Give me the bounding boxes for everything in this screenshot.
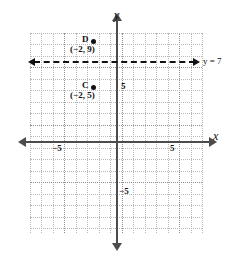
gridline-vertical (76, 33, 77, 233)
y-tick-label-5: 5 (121, 81, 126, 91)
data-point-d-name: D (82, 34, 89, 44)
gridline-vertical (41, 33, 42, 233)
dashed-line-arrow-right-icon (193, 58, 200, 66)
dashed-line-arrow-left-icon (28, 58, 35, 66)
x-axis-label: x (213, 129, 218, 144)
gridline-vertical-major (179, 33, 180, 233)
gridline-vertical-major (64, 33, 65, 233)
y-axis-arrow-down-icon (112, 243, 122, 251)
gridline-vertical (168, 33, 169, 233)
gridline-vertical (110, 33, 111, 233)
x-tick-label-5: 5 (170, 143, 175, 153)
line-equation-label: y = 7 (203, 56, 222, 66)
coordinate-plane-figure: y x −5 5 5 −5 y = 7 D (−2, 9) C (−2, 5) (0, 0, 238, 258)
gridline-vertical (191, 33, 192, 233)
y-tick-label-negative-5: −5 (119, 186, 129, 196)
data-point-d-coordinates: (−2, 9) (70, 44, 95, 54)
gridline-vertical (87, 33, 88, 233)
y-axis-label: y (114, 8, 119, 23)
data-point-c-coordinates: (−2, 5) (70, 90, 95, 100)
gridline-vertical-major (122, 33, 123, 233)
gridline-vertical (145, 33, 146, 233)
x-tick-label-negative-5: −5 (52, 143, 62, 153)
gridline-vertical (53, 33, 54, 233)
dashed-line-y-equals-7 (34, 61, 195, 63)
gridline-vertical (133, 33, 134, 233)
gridline-vertical (99, 33, 100, 233)
gridline-vertical (156, 33, 157, 233)
data-point-c-name: C (82, 80, 89, 90)
y-axis (116, 20, 118, 245)
x-axis-arrow-left-icon (18, 137, 26, 147)
